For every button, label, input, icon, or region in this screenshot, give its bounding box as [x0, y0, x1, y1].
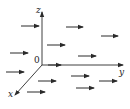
coordinate-axes: zyx	[8, 5, 125, 99]
x-axis	[15, 65, 42, 95]
z-axis-label: z	[35, 5, 41, 15]
x-axis-label: x	[8, 89, 13, 99]
vector-arrows	[6, 26, 118, 92]
vector-field-diagram: zyx 0	[0, 0, 130, 109]
y-axis-label: y	[118, 67, 125, 77]
origin-label: 0	[34, 55, 40, 65]
